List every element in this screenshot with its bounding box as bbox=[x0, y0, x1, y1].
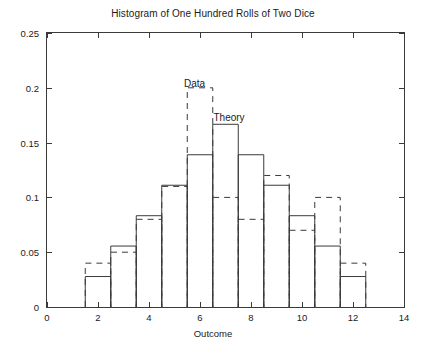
data-bar bbox=[213, 197, 239, 307]
y-tick-label: 0.2 bbox=[26, 82, 39, 93]
y-tick-mark bbox=[47, 307, 52, 308]
y-tick-label: 0.25 bbox=[21, 28, 40, 39]
plot-area bbox=[46, 32, 405, 308]
theory-bar bbox=[213, 124, 239, 307]
data-bar bbox=[264, 175, 290, 307]
y-tick-label: 0 bbox=[34, 302, 39, 313]
theory-bar bbox=[187, 155, 213, 307]
chart-title: Histogram of One Hundred Rolls of Two Di… bbox=[0, 8, 426, 19]
y-tick-mark bbox=[399, 307, 404, 308]
x-tick-label: 8 bbox=[248, 312, 253, 323]
data-bar bbox=[315, 197, 341, 307]
data-bar bbox=[289, 230, 315, 307]
theory-bar bbox=[111, 246, 137, 307]
x-tick-label: 14 bbox=[399, 312, 410, 323]
data-bar bbox=[238, 219, 264, 307]
x-tick-label: 6 bbox=[197, 312, 202, 323]
theory-bar bbox=[315, 246, 341, 307]
data-bar bbox=[162, 186, 188, 307]
theory-bar bbox=[289, 216, 315, 307]
data-bar bbox=[136, 219, 162, 307]
x-tick-mark bbox=[404, 302, 405, 307]
theory-bar bbox=[238, 155, 264, 307]
x-tick-label: 4 bbox=[146, 312, 151, 323]
x-axis-label: Outcome bbox=[0, 328, 426, 339]
data-bar bbox=[187, 88, 213, 307]
x-tick-label: 10 bbox=[297, 312, 308, 323]
y-tick-label: 0.15 bbox=[21, 137, 40, 148]
data-bar bbox=[340, 263, 366, 307]
x-tick-label: 12 bbox=[348, 312, 359, 323]
data-bar bbox=[111, 252, 137, 307]
theory-bar bbox=[136, 216, 162, 307]
x-tick-mark bbox=[404, 33, 405, 38]
theory-annotation-label: Theory bbox=[214, 112, 245, 123]
theory-bar bbox=[264, 185, 290, 307]
chart-figure: Histogram of One Hundred Rolls of Two Di… bbox=[0, 0, 426, 344]
theory-bar bbox=[340, 277, 366, 307]
theory-bar bbox=[85, 277, 111, 307]
y-tick-label: 0.05 bbox=[21, 247, 40, 258]
x-tick-label: 0 bbox=[44, 312, 49, 323]
y-tick-label: 0.1 bbox=[26, 192, 39, 203]
theory-bar bbox=[162, 185, 188, 307]
x-tick-label: 2 bbox=[95, 312, 100, 323]
data-bar bbox=[85, 263, 111, 307]
data-annotation-label: Data bbox=[184, 78, 205, 89]
histogram-bars bbox=[47, 33, 404, 307]
